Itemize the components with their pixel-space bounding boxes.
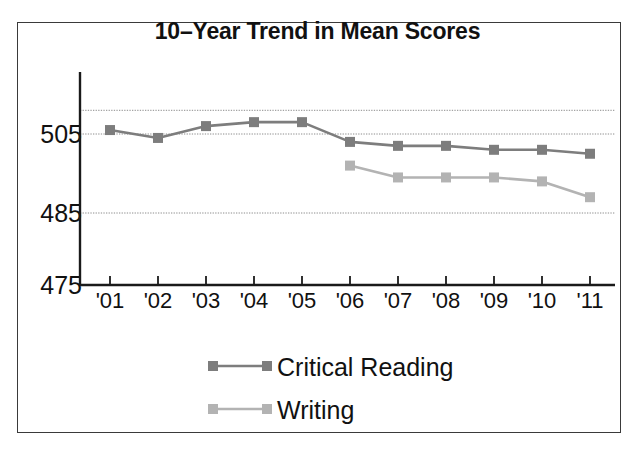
legend-marker: [262, 361, 272, 371]
data-point-marker: [585, 149, 595, 159]
data-point-marker: [489, 172, 499, 182]
axes: [80, 72, 615, 285]
data-point-marker: [345, 137, 355, 147]
data-point-marker: [249, 117, 259, 127]
data-point-marker: [585, 192, 595, 202]
data-point-marker: [537, 145, 547, 155]
data-point-marker: [441, 141, 451, 151]
data-point-marker: [297, 117, 307, 127]
data-point-marker: [537, 176, 547, 186]
legend-marker: [208, 361, 218, 371]
x-axis-ticks: [110, 276, 590, 285]
legend-swatches: [208, 361, 272, 414]
data-series: [105, 117, 595, 202]
legend-marker: [208, 404, 218, 414]
data-point-marker: [393, 172, 403, 182]
data-point-marker: [345, 161, 355, 171]
chart-screenshot: 10–Year Trend in Mean Scores 505 485 475…: [0, 0, 635, 452]
data-point-marker: [105, 125, 115, 135]
data-point-marker: [441, 172, 451, 182]
data-point-marker: [393, 141, 403, 151]
series-line-writing: [350, 166, 590, 198]
legend-marker: [262, 404, 272, 414]
data-point-marker: [153, 133, 163, 143]
data-point-marker: [201, 121, 211, 131]
plot-area: [0, 0, 635, 452]
data-point-marker: [489, 145, 499, 155]
